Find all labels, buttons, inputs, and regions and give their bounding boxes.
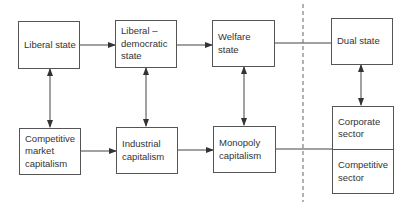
label-liberal-state: Liberal state	[24, 39, 76, 52]
label-competitive-sector: Competitive sector	[338, 159, 388, 184]
box-monopoly-capitalism: Monopoly capitalism	[213, 126, 276, 173]
box-liberal-state: Liberal state	[18, 21, 80, 69]
label-welfare-state: Welfare state	[218, 31, 251, 56]
label-corporate-sector: Corporate sector	[338, 116, 380, 141]
label-industrial-capitalism: Industrial capitalism	[122, 138, 164, 163]
box-welfare-state: Welfare state	[212, 20, 275, 67]
box-competitive-sector: Competitive sector	[332, 149, 394, 194]
label-dual-state: Dual state	[337, 35, 380, 48]
box-competitive-market-capitalism: Competitive market capitalism	[19, 128, 81, 175]
label-monopoly-capitalism: Monopoly capitalism	[219, 137, 261, 162]
box-industrial-capitalism: Industrial capitalism	[116, 127, 178, 174]
label-competitive-market-capitalism: Competitive market capitalism	[25, 133, 75, 171]
box-liberal-democratic-state: Liberal – democratic state	[115, 20, 177, 68]
box-corporate-sector: Corporate sector	[332, 106, 394, 150]
box-dual-state: Dual state	[331, 18, 393, 65]
label-liberal-democratic-state: Liberal – democratic state	[121, 25, 167, 63]
